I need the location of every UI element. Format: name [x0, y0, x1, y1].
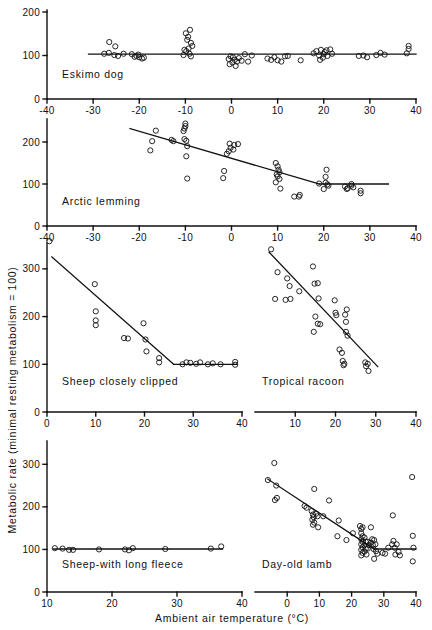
data-point: [366, 368, 371, 373]
x-tick-label: 40: [236, 418, 248, 429]
x-tick-label: 30: [171, 598, 183, 609]
x-tick-label: 40: [410, 418, 422, 429]
data-point: [316, 525, 321, 530]
x-tick-label: 10: [41, 598, 53, 609]
y-tick-label: 100: [22, 359, 40, 370]
data-point: [148, 148, 153, 153]
data-point: [185, 176, 190, 181]
x-tick-label: 20: [139, 418, 151, 429]
x-tick-label: 0: [229, 105, 235, 116]
data-point: [107, 39, 112, 44]
data-point: [93, 309, 98, 314]
data-point: [404, 51, 409, 56]
data-point: [150, 139, 155, 144]
data-point: [390, 513, 395, 518]
data-point: [310, 264, 315, 269]
data-point: [311, 329, 316, 334]
x-tick-label: -10: [178, 105, 193, 116]
data-point: [410, 474, 415, 479]
data-point: [222, 168, 227, 173]
y-tick-label: 100: [22, 50, 40, 61]
x-tick-label: 10: [272, 105, 284, 116]
data-point: [285, 276, 290, 281]
subplot-title: Tropical racoon: [262, 375, 344, 387]
data-point: [235, 142, 240, 147]
subplot-sheep-closely-clipped: 0100200300010203040Sheep closely clipped: [22, 239, 248, 429]
x-tick-label: 0: [284, 598, 290, 609]
y-axis-title: Metabolic rate (minimal resting metaboli…: [6, 267, 18, 534]
data-point: [190, 43, 195, 48]
subplot-day-old-lamb: 010203040Day-old lamb: [255, 460, 422, 609]
data-point: [410, 533, 415, 538]
x-tick-label: 10: [272, 232, 284, 243]
x-tick-label: 40: [236, 598, 248, 609]
y-tick-label: 300: [22, 459, 40, 470]
data-point: [315, 281, 320, 286]
data-point: [275, 270, 280, 275]
data-point: [283, 297, 288, 302]
y-tick-label: 200: [22, 501, 40, 512]
x-tick-label: 30: [364, 232, 376, 243]
data-point: [92, 282, 97, 287]
data-point: [297, 289, 302, 294]
x-tick-label: 40: [410, 105, 422, 116]
data-point: [70, 547, 75, 552]
data-point: [144, 349, 149, 354]
y-tick-label: 100: [22, 544, 40, 555]
data-point: [221, 176, 226, 181]
data-point: [112, 52, 117, 57]
data-point: [125, 336, 130, 341]
data-point: [246, 59, 251, 64]
data-point: [326, 498, 331, 503]
data-point: [52, 546, 57, 551]
data-point: [343, 319, 348, 324]
x-tick-label: 20: [346, 598, 358, 609]
subplot-eskimo-dog: 0100200-40-30-20-10010203040Eskimo dog: [22, 7, 422, 116]
data-point: [372, 556, 377, 561]
x-tick-label: 10: [90, 418, 102, 429]
data-point: [324, 167, 329, 172]
x-tick-label: 0: [44, 418, 50, 429]
subplot-title: Eskimo dog: [62, 68, 124, 80]
subplot-title: Arctic lemming: [62, 195, 141, 207]
y-tick-label: 0: [34, 407, 40, 418]
data-point: [344, 537, 349, 542]
x-tick-label: 20: [106, 598, 118, 609]
subplot-title: Day-old lamb: [262, 558, 332, 570]
x-tick-label: 20: [330, 418, 342, 429]
data-point: [187, 27, 192, 32]
data-point: [288, 296, 293, 301]
data-point: [321, 186, 326, 191]
data-point: [323, 174, 328, 179]
x-tick-label: 30: [187, 418, 199, 429]
data-point: [298, 58, 303, 63]
subplot-title: Sheep closely clipped: [62, 375, 178, 387]
y-tick-label: 0: [34, 221, 40, 232]
data-point: [336, 518, 341, 523]
x-tick-label: -10: [178, 232, 193, 243]
figure-root: 0100200-40-30-20-10010203040Eskimo dog01…: [0, 0, 432, 630]
x-tick-label: 10: [314, 598, 326, 609]
data-point: [184, 154, 189, 159]
fit-line: [268, 479, 374, 549]
data-point: [391, 538, 396, 543]
data-point: [313, 314, 318, 319]
fit-line: [52, 257, 174, 364]
x-tick-label: -20: [132, 105, 147, 116]
y-tick-label: 0: [34, 587, 40, 598]
data-point: [188, 40, 193, 45]
data-point: [153, 128, 158, 133]
x-tick-label: -30: [85, 232, 100, 243]
data-point: [273, 180, 278, 185]
subplot-arctic-lemming: 0100200-40-30-20-10010203040Arctic lemmi…: [22, 119, 422, 243]
data-point: [297, 192, 302, 197]
y-tick-label: 100: [22, 179, 40, 190]
y-tick-label: 200: [22, 311, 40, 322]
x-tick-label: 10: [289, 418, 301, 429]
data-point: [113, 44, 118, 49]
x-tick-label: 30: [364, 105, 376, 116]
subplot-sheep-with-long-fleece: 010020030010203040Sheep-with long fleece: [22, 441, 248, 609]
data-point: [410, 559, 415, 564]
x-tick-label: 30: [370, 418, 382, 429]
y-tick-label: 300: [22, 263, 40, 274]
